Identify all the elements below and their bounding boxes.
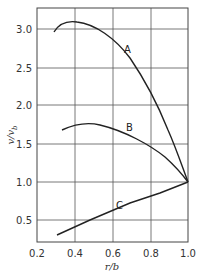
x-tick-0.4: 0.4 [67,248,83,259]
y-tick-1.5: 1.5 [16,139,32,150]
curve-label-b: B [126,122,133,133]
y-axis-label-main: v/v [5,130,16,145]
y-axis-label-sub: b [11,125,19,130]
curve-label-c: C [116,200,123,211]
x-axis-label: r/b [105,261,120,272]
x-tick-0.6: 0.6 [105,248,121,259]
y-tick-2.0: 2.0 [16,100,32,111]
x-tick-0.2: 0.2 [29,248,45,259]
y-tick-1.0: 1.0 [16,177,32,188]
y-tick-2.5: 2.5 [16,63,32,74]
curve-label-a: A [124,44,131,55]
y-tick-0.5: 0.5 [16,215,32,226]
chart-canvas: A B C 0.5 1.0 1.5 2.0 2.5 3.0 0.2 0.4 0.… [0,0,207,275]
y-tick-3.0: 3.0 [16,24,32,35]
x-tick-0.8: 0.8 [143,248,159,259]
x-tick-1.0: 1.0 [180,248,196,259]
curve-a [54,22,188,182]
